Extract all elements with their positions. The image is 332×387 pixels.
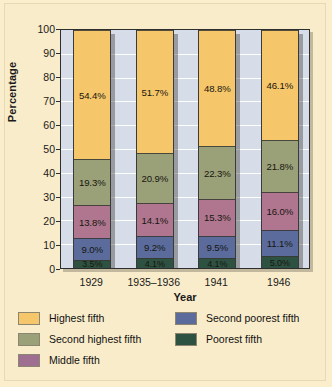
bar-segment-label: 16.0% xyxy=(266,206,293,217)
bar-group: 4.1%9.2%14.1%20.9%51.7% xyxy=(136,30,174,268)
legend-item[interactable]: Second highest fifth xyxy=(18,332,141,346)
y-tick-label: 10 xyxy=(29,239,55,251)
y-tick-mark xyxy=(56,149,60,150)
legend-swatch xyxy=(18,333,40,346)
bar-stack: 4.1%9.5%15.3%22.3%48.8% xyxy=(198,30,236,268)
bar-segment-label: 9.2% xyxy=(144,242,165,253)
chart-figure: Percentage 3.5%9.0%13.8%19.3%54.4%4.1%9.… xyxy=(0,0,332,387)
x-tick-label: 1941 xyxy=(205,276,228,288)
bar-stack: 4.1%9.2%14.1%20.9%51.7% xyxy=(136,30,174,268)
legend-label: Second highest fifth xyxy=(49,333,141,345)
y-tick-mark xyxy=(56,245,60,246)
plot-wrapper: 3.5%9.0%13.8%19.3%54.4%4.1%9.2%14.1%20.9… xyxy=(60,29,310,269)
bar-segment-label: 51.7% xyxy=(141,87,168,98)
bar-stack: 3.5%9.0%13.8%19.3%54.4% xyxy=(73,30,111,268)
bar-group: 4.1%9.5%15.3%22.3%48.8% xyxy=(198,30,236,268)
bar-stack: 5.0%11.1%16.0%21.8%46.1% xyxy=(261,30,299,268)
bar-segment-label: 13.8% xyxy=(79,217,106,228)
y-tick-label: 20 xyxy=(29,215,55,227)
bar-segment-label: 15.3% xyxy=(204,212,231,223)
y-axis-title: Percentage xyxy=(6,32,18,152)
legend-label: Poorest fifth xyxy=(206,333,262,345)
bar-segment-label: 9.0% xyxy=(82,244,103,255)
bar-segment-label: 22.3% xyxy=(204,168,231,179)
legend-item[interactable]: Second poorest fifth xyxy=(175,311,299,325)
plot-area: 3.5%9.0%13.8%19.3%54.4%4.1%9.2%14.1%20.9… xyxy=(60,29,310,269)
bar-segment: 16.0% xyxy=(262,192,298,230)
bar-segment: 54.4% xyxy=(74,30,110,159)
legend-label: Second poorest fifth xyxy=(206,312,299,324)
y-tick-mark xyxy=(56,269,60,270)
bar-segment-label: 9.5% xyxy=(207,242,228,253)
bar-segment: 4.1% xyxy=(137,258,173,268)
bar-group: 3.5%9.0%13.8%19.3%54.4% xyxy=(73,30,111,268)
bar-segment: 20.9% xyxy=(137,153,173,203)
bar-segment: 9.5% xyxy=(199,236,235,259)
x-tick-label: 1946 xyxy=(267,276,290,288)
y-tick-label: 90 xyxy=(29,47,55,59)
bar-segment-label: 21.8% xyxy=(266,161,293,172)
bar-segment-label: 5.0% xyxy=(270,258,290,268)
bar-segment: 19.3% xyxy=(74,159,110,205)
bar-segment: 3.5% xyxy=(74,260,110,268)
chart-legend: Highest fifthSecond highest fifthMiddle … xyxy=(18,311,314,369)
bar-segment-label: 20.9% xyxy=(141,173,168,184)
y-tick-mark xyxy=(56,221,60,222)
legend-swatch xyxy=(175,312,197,325)
bar-segment-label: 48.8% xyxy=(204,83,231,94)
bar-segment: 22.3% xyxy=(199,146,235,199)
y-tick-mark xyxy=(56,77,60,78)
y-tick-label: 100 xyxy=(29,23,55,35)
bar-segment: 21.8% xyxy=(262,140,298,192)
bar-segment: 9.2% xyxy=(137,236,173,258)
legend-swatch xyxy=(18,312,40,325)
y-tick-label: 70 xyxy=(29,95,55,107)
y-tick-mark xyxy=(56,173,60,174)
y-tick-label: 60 xyxy=(29,119,55,131)
legend-label: Highest fifth xyxy=(49,312,104,324)
bar-segment: 9.0% xyxy=(74,238,110,259)
bar-segment: 5.0% xyxy=(262,256,298,268)
bar-segment: 11.1% xyxy=(262,230,298,256)
y-tick-label: 50 xyxy=(29,143,55,155)
legend-item[interactable]: Middle fifth xyxy=(18,353,100,367)
bar-segment: 51.7% xyxy=(137,30,173,153)
bar-segment: 13.8% xyxy=(74,205,110,238)
bar-segment: 14.1% xyxy=(137,203,173,237)
bar-segment-label: 11.1% xyxy=(267,238,293,249)
bar-segment: 15.3% xyxy=(199,199,235,235)
bar-segment-label: 46.1% xyxy=(266,80,293,91)
x-tick-label: 1935–1936 xyxy=(127,276,180,288)
x-tick-label: 1929 xyxy=(80,276,103,288)
y-tick-label: 40 xyxy=(29,167,55,179)
legend-label: Middle fifth xyxy=(49,354,100,366)
bar-segment-label: 4.1% xyxy=(207,259,227,269)
y-tick-mark xyxy=(56,125,60,126)
bar-segment-label: 54.4% xyxy=(79,90,106,101)
legend-item[interactable]: Poorest fifth xyxy=(175,332,262,346)
bar-segment-label: 19.3% xyxy=(79,177,106,188)
y-tick-label: 0 xyxy=(29,263,55,275)
y-tick-label: 30 xyxy=(29,191,55,203)
y-tick-mark xyxy=(56,29,60,30)
legend-item[interactable]: Highest fifth xyxy=(18,311,104,325)
bar-segment-label: 3.5% xyxy=(82,259,102,269)
bar-group: 5.0%11.1%16.0%21.8%46.1% xyxy=(261,30,299,268)
y-tick-mark xyxy=(56,101,60,102)
y-tick-mark xyxy=(56,53,60,54)
bar-segment: 48.8% xyxy=(199,30,235,146)
y-tick-mark xyxy=(56,197,60,198)
bar-segment: 4.1% xyxy=(199,258,235,268)
legend-swatch xyxy=(175,333,197,346)
y-tick-label: 80 xyxy=(29,71,55,83)
bar-segment-label: 4.1% xyxy=(145,259,165,269)
bar-segment: 46.1% xyxy=(262,30,298,140)
x-axis-title: Year xyxy=(60,291,310,303)
legend-swatch xyxy=(18,354,40,367)
bar-segment-label: 14.1% xyxy=(141,215,168,226)
